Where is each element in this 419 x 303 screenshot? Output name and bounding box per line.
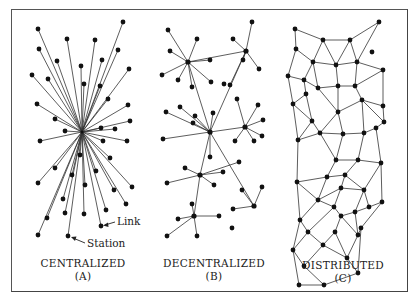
- link-edge: [298, 121, 312, 140]
- hub-node: [185, 59, 190, 64]
- caption-title: DISTRIBUTED: [278, 259, 408, 272]
- station-node: [208, 58, 213, 63]
- station-node: [360, 98, 365, 103]
- link-edge: [295, 29, 323, 40]
- link-edge: [297, 182, 300, 220]
- station-node: [355, 60, 360, 65]
- link-arrowhead-icon: [103, 223, 109, 228]
- station-node: [37, 47, 42, 52]
- central-hub-node: [80, 130, 83, 133]
- link-edge: [355, 62, 357, 86]
- station-node: [211, 111, 216, 116]
- link-edge: [65, 132, 82, 213]
- station-node: [65, 37, 70, 42]
- station-node: [381, 68, 386, 73]
- station-node: [332, 205, 337, 210]
- station-node: [53, 117, 58, 122]
- link-edge: [295, 29, 296, 49]
- station-node: [380, 200, 385, 205]
- link-edge: [355, 70, 383, 86]
- station-node: [336, 110, 341, 115]
- link-edge: [304, 80, 318, 88]
- hub-link-edge: [200, 132, 210, 175]
- station-node: [321, 38, 326, 43]
- station-node: [121, 20, 126, 25]
- station-node: [257, 67, 262, 72]
- hub-link-edge: [210, 127, 245, 132]
- station-node: [161, 137, 166, 142]
- link-edge: [82, 105, 128, 132]
- link-edge: [246, 51, 259, 69]
- station-node: [367, 205, 372, 210]
- caption-centralized: CENTRALIZED (A): [18, 257, 148, 283]
- link-edge: [170, 51, 188, 62]
- link-label: Link: [117, 215, 140, 227]
- station-node: [100, 58, 105, 63]
- link-edge: [313, 62, 318, 88]
- station-node: [79, 64, 84, 69]
- station-node: [377, 20, 382, 25]
- link-edge: [364, 190, 369, 207]
- link-edge: [357, 22, 379, 62]
- caption-letter: (A): [18, 270, 148, 283]
- station-node: [208, 155, 213, 160]
- station-node: [104, 208, 109, 213]
- station-node: [112, 188, 117, 193]
- station-node: [82, 82, 87, 87]
- link-edge: [188, 39, 197, 62]
- station-node: [293, 27, 298, 32]
- link-edge: [163, 132, 210, 139]
- link-edge: [82, 132, 114, 190]
- station-node: [260, 134, 265, 139]
- station-node: [318, 131, 323, 136]
- station-node: [178, 105, 183, 110]
- station-node: [256, 103, 261, 108]
- station-node: [217, 214, 222, 219]
- link-edge: [188, 62, 192, 87]
- link-edge: [320, 112, 338, 133]
- station-node: [237, 160, 242, 165]
- station-node: [190, 202, 195, 207]
- station-node: [235, 97, 240, 102]
- link-edge: [82, 86, 100, 132]
- station-node: [166, 28, 171, 33]
- link-edge: [358, 133, 364, 160]
- station-arrowhead-icon: [71, 237, 77, 242]
- station-node: [82, 212, 87, 217]
- station-node: [108, 156, 113, 161]
- link-edge: [168, 30, 188, 62]
- station-node: [348, 38, 353, 43]
- station-node: [302, 78, 307, 83]
- station-node: [339, 214, 344, 219]
- station-node: [36, 27, 41, 32]
- station-node: [83, 183, 88, 188]
- link-edge: [288, 49, 296, 76]
- station-node: [78, 153, 83, 158]
- station-node: [46, 77, 51, 82]
- link-edge: [338, 112, 343, 134]
- station-node: [165, 234, 170, 239]
- station-node: [334, 63, 339, 68]
- station-node: [35, 102, 40, 107]
- link-edge: [345, 160, 358, 175]
- link-edge: [336, 62, 357, 65]
- distributed-network: [286, 20, 387, 288]
- station-node: [94, 169, 99, 174]
- station-node: [191, 121, 196, 126]
- caption-letter: (C): [278, 272, 408, 285]
- station-node: [379, 161, 384, 166]
- station-label: Station: [87, 237, 125, 249]
- station-node: [99, 224, 104, 229]
- station-node: [310, 119, 315, 124]
- link-edge: [327, 175, 345, 177]
- link-edge: [343, 133, 364, 134]
- station-node: [370, 50, 375, 55]
- link-edge: [297, 182, 318, 200]
- link-edge: [288, 76, 293, 104]
- hub-node: [242, 124, 247, 129]
- station-node: [359, 226, 364, 231]
- link-edge: [313, 40, 323, 62]
- link-edge: [167, 175, 200, 183]
- station-node: [106, 97, 111, 102]
- link-edge: [338, 100, 362, 112]
